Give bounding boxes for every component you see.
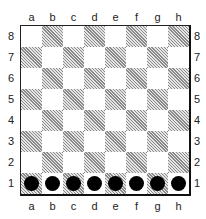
square-h1[interactable]	[168, 173, 189, 194]
square-c4[interactable]	[63, 110, 84, 131]
chess-board	[20, 25, 191, 196]
rank-label-left-4: 4	[5, 110, 17, 131]
file-label-bottom-g: g	[147, 200, 168, 212]
square-h5[interactable]	[168, 89, 189, 110]
square-a7[interactable]	[21, 47, 42, 68]
file-label-top-a: a	[21, 11, 42, 23]
square-h6[interactable]	[168, 68, 189, 89]
square-e8[interactable]	[105, 26, 126, 47]
square-g8[interactable]	[147, 26, 168, 47]
square-f3[interactable]	[126, 131, 147, 152]
square-e5[interactable]	[105, 89, 126, 110]
square-d3[interactable]	[84, 131, 105, 152]
square-g3[interactable]	[147, 131, 168, 152]
square-a4[interactable]	[21, 110, 42, 131]
square-d4[interactable]	[84, 110, 105, 131]
square-e6[interactable]	[105, 68, 126, 89]
square-h8[interactable]	[168, 26, 189, 47]
file-label-bottom-c: c	[63, 200, 84, 212]
square-h2[interactable]	[168, 152, 189, 173]
square-b7[interactable]	[42, 47, 63, 68]
square-b8[interactable]	[42, 26, 63, 47]
square-d1[interactable]	[84, 173, 105, 194]
piece-black-disc-c1[interactable]	[66, 176, 81, 191]
rank-label-right-2: 2	[191, 152, 203, 173]
chess-diagram: abcdefgh abcdefgh 87654321 87654321	[0, 0, 206, 219]
rank-label-left-1: 1	[5, 173, 17, 194]
square-f8[interactable]	[126, 26, 147, 47]
rank-label-right-5: 5	[191, 89, 203, 110]
square-g4[interactable]	[147, 110, 168, 131]
file-label-bottom-h: h	[168, 200, 189, 212]
rank-label-right-8: 8	[191, 26, 203, 47]
square-c8[interactable]	[63, 26, 84, 47]
file-label-top-f: f	[126, 11, 147, 23]
square-a1[interactable]	[21, 173, 42, 194]
square-h7[interactable]	[168, 47, 189, 68]
square-c7[interactable]	[63, 47, 84, 68]
square-b2[interactable]	[42, 152, 63, 173]
square-h4[interactable]	[168, 110, 189, 131]
square-e7[interactable]	[105, 47, 126, 68]
square-e2[interactable]	[105, 152, 126, 173]
square-c5[interactable]	[63, 89, 84, 110]
file-label-top-e: e	[105, 11, 126, 23]
square-f1[interactable]	[126, 173, 147, 194]
square-b5[interactable]	[42, 89, 63, 110]
square-d7[interactable]	[84, 47, 105, 68]
piece-black-disc-b1[interactable]	[45, 176, 60, 191]
square-g6[interactable]	[147, 68, 168, 89]
square-f6[interactable]	[126, 68, 147, 89]
square-b6[interactable]	[42, 68, 63, 89]
square-e3[interactable]	[105, 131, 126, 152]
rank-label-right-4: 4	[191, 110, 203, 131]
square-g5[interactable]	[147, 89, 168, 110]
rank-label-right-1: 1	[191, 173, 203, 194]
square-c1[interactable]	[63, 173, 84, 194]
square-b1[interactable]	[42, 173, 63, 194]
square-g7[interactable]	[147, 47, 168, 68]
square-a6[interactable]	[21, 68, 42, 89]
square-f2[interactable]	[126, 152, 147, 173]
file-label-bottom-a: a	[21, 200, 42, 212]
piece-black-disc-e1[interactable]	[108, 176, 123, 191]
file-label-bottom-d: d	[84, 200, 105, 212]
file-label-top-g: g	[147, 11, 168, 23]
piece-black-disc-d1[interactable]	[87, 176, 102, 191]
square-e4[interactable]	[105, 110, 126, 131]
square-b4[interactable]	[42, 110, 63, 131]
square-d2[interactable]	[84, 152, 105, 173]
rank-label-left-8: 8	[5, 26, 17, 47]
rank-label-left-7: 7	[5, 47, 17, 68]
square-a5[interactable]	[21, 89, 42, 110]
piece-black-disc-h1[interactable]	[171, 176, 186, 191]
square-c2[interactable]	[63, 152, 84, 173]
square-g1[interactable]	[147, 173, 168, 194]
square-d6[interactable]	[84, 68, 105, 89]
piece-black-disc-a1[interactable]	[24, 176, 39, 191]
square-a3[interactable]	[21, 131, 42, 152]
square-c6[interactable]	[63, 68, 84, 89]
piece-black-disc-f1[interactable]	[129, 176, 144, 191]
square-a2[interactable]	[21, 152, 42, 173]
square-d5[interactable]	[84, 89, 105, 110]
square-f7[interactable]	[126, 47, 147, 68]
square-f5[interactable]	[126, 89, 147, 110]
file-label-bottom-f: f	[126, 200, 147, 212]
square-h3[interactable]	[168, 131, 189, 152]
square-a8[interactable]	[21, 26, 42, 47]
file-label-bottom-e: e	[105, 200, 126, 212]
file-label-top-h: h	[168, 11, 189, 23]
square-g2[interactable]	[147, 152, 168, 173]
rank-label-left-2: 2	[5, 152, 17, 173]
rank-label-left-5: 5	[5, 89, 17, 110]
square-b3[interactable]	[42, 131, 63, 152]
rank-label-left-3: 3	[5, 131, 17, 152]
square-e1[interactable]	[105, 173, 126, 194]
rank-label-right-3: 3	[191, 131, 203, 152]
file-label-top-d: d	[84, 11, 105, 23]
square-c3[interactable]	[63, 131, 84, 152]
piece-black-disc-g1[interactable]	[150, 176, 165, 191]
square-f4[interactable]	[126, 110, 147, 131]
square-d8[interactable]	[84, 26, 105, 47]
